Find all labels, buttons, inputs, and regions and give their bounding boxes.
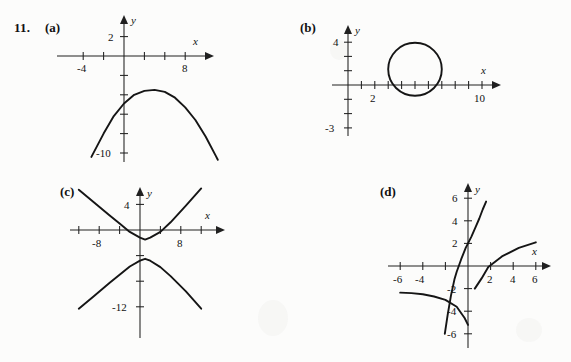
panel-d-xtick-label-neg4: -4: [415, 273, 425, 285]
panel-b-x-axis-name: x: [480, 64, 486, 76]
panel-d-plot: -6 -4 2 4 6 6 4 2 -2 -4 -6 x y: [380, 178, 570, 358]
panel-b-ytick-label-4: 4: [333, 36, 339, 48]
panel-a-xtick-label-neg4: -4: [77, 62, 87, 74]
panel-d-axes: [388, 183, 551, 348]
panel-a-label: (a): [45, 20, 60, 36]
textbook-figure-page: 11. (a): [0, 0, 571, 362]
panel-d-x-axis-name: x: [531, 245, 537, 257]
panel-c-xtick-label-8: 8: [177, 237, 183, 249]
panel-d-xtick-label-4: 4: [510, 273, 516, 285]
panel-c-label: (c): [60, 184, 74, 200]
panel-b-ytick-label-neg3: -3: [325, 122, 335, 134]
panel-c-x-axis-name: x: [204, 209, 210, 221]
panel-d-xtick-label-neg6: -6: [393, 273, 403, 285]
panel-b: (b): [300, 10, 560, 175]
panel-b-y-axis-name: y: [354, 24, 360, 36]
panel-a-x-axis-name: x: [192, 35, 198, 47]
panel-d-xtick-label-6: 6: [532, 273, 538, 285]
panel-d-xtick-label-2: 2: [487, 273, 493, 285]
panel-b-plot: 2 10 4 -3 x y: [300, 10, 550, 175]
panel-c-plot: -8 8 4 -12 x y: [60, 178, 290, 358]
panel-c-ytick-label-4: 4: [124, 199, 130, 211]
panel-c-y-axis-name: y: [146, 187, 152, 199]
panel-a: (a) -: [45, 10, 285, 175]
panel-d-y-axis-name: y: [474, 183, 480, 195]
panel-d-ytick-label-neg6: -6: [447, 328, 457, 340]
panel-a-xtick-label-8: 8: [182, 62, 188, 74]
panel-c-ytick-label-neg12: -12: [112, 301, 127, 313]
panel-d-ytick-label-6: 6: [452, 192, 458, 204]
panel-c-xtick-label-neg8: -8: [92, 237, 102, 249]
panel-b-xtick-label-10: 10: [474, 92, 486, 104]
panel-b-xtick-label-2: 2: [370, 92, 376, 104]
panel-b-axes: [332, 25, 501, 136]
panel-d-ytick-label-4: 4: [452, 215, 458, 227]
panel-a-ytick-label-neg10: -10: [96, 147, 111, 159]
panel-a-axes: [57, 15, 214, 162]
problem-number: 11.: [14, 20, 30, 36]
panel-d-label: (d): [380, 184, 396, 200]
panel-a-y-axis-name: y: [130, 14, 136, 26]
panel-a-plot: -4 8 2 -10 x y: [45, 10, 275, 175]
panel-c-axes: [70, 187, 225, 338]
panel-a-ytick-label-2: 2: [108, 31, 114, 43]
panel-d: (d): [380, 178, 570, 358]
panel-b-label: (b): [300, 20, 316, 36]
panel-d-ytick-label-2: 2: [452, 237, 458, 249]
panel-c: (c) -8 8: [60, 178, 300, 358]
